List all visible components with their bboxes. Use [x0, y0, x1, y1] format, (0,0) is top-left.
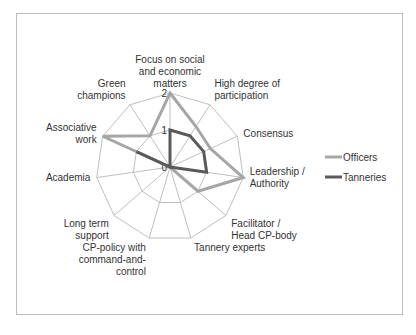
axis-label: and economic	[139, 66, 201, 77]
axis-label: Facilitator /	[231, 218, 280, 229]
axis-label: Focus on social	[135, 54, 204, 65]
axis-label: participation	[214, 90, 268, 101]
axis-label: champions	[77, 90, 125, 101]
axis-label: Long term	[64, 218, 109, 229]
tick-label: 1	[161, 125, 167, 136]
axis-label: matters	[153, 78, 186, 89]
axis-label: CP-policy with	[83, 242, 146, 253]
legend-label: Tanneries	[343, 172, 386, 183]
axis-label: command-and-	[79, 254, 146, 265]
axis-label: control	[116, 266, 146, 277]
legend: OfficersTanneries	[325, 152, 386, 183]
axis-labels: Focus on socialand economicmattersHigh d…	[46, 54, 305, 278]
axis-label: Authority	[250, 178, 289, 189]
axis-label: Associative	[46, 122, 97, 133]
axis-label: Academia	[46, 172, 91, 183]
axis-label: support	[75, 230, 109, 241]
axis-label: Green	[98, 78, 126, 89]
axis-label: Consensus	[243, 128, 293, 139]
radar-chart: 012Focus on socialand economicmattersHig…	[0, 0, 416, 335]
axis-label: work	[75, 134, 98, 145]
axis-label: Leadership /	[250, 166, 305, 177]
axis-label: Head CP-body	[231, 230, 297, 241]
axis-label: Tannery experts	[194, 242, 265, 253]
legend-label: Officers	[343, 152, 377, 163]
axis-label: High degree of	[214, 78, 280, 89]
